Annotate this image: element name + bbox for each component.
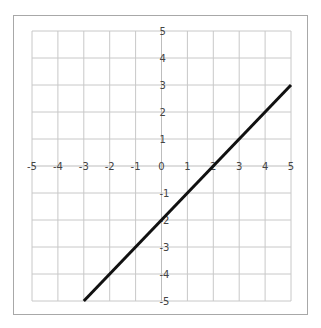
y-tick-label: -1	[160, 188, 170, 199]
y-tick-label: 2	[160, 107, 166, 118]
x-tick-label: 3	[236, 161, 242, 172]
x-tick-label: -4	[53, 161, 63, 172]
y-tick-label: -3	[160, 242, 170, 253]
x-tick-label: 0	[158, 161, 164, 172]
y-tick-label: 4	[160, 53, 166, 64]
y-tick-label: 5	[160, 26, 166, 37]
y-tick-label: -4	[160, 269, 170, 280]
x-tick-label: 1	[184, 161, 190, 172]
y-tick-label: 3	[160, 80, 166, 91]
x-tick-label: 5	[288, 161, 294, 172]
x-tick-label: -1	[131, 161, 141, 172]
y-tick-label: -5	[160, 296, 170, 307]
y-tick-label: 1	[160, 134, 166, 145]
x-tick-label: 4	[262, 161, 268, 172]
x-tick-label: -3	[79, 161, 89, 172]
x-tick-label: -5	[27, 161, 37, 172]
line-chart: -5-4-3-2-101234554321-1-2-3-4-5	[0, 0, 321, 328]
x-tick-label: -2	[105, 161, 115, 172]
